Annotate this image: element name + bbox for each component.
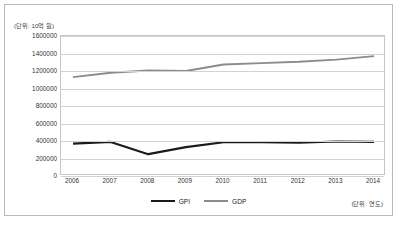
gridline (61, 71, 384, 72)
x-tick-label: 2011 (253, 177, 267, 184)
y-tick-label: 600000 (36, 119, 57, 126)
y-tick-label: 1600000 (32, 32, 57, 39)
y-tick-label: 800000 (36, 102, 57, 109)
gridline (61, 124, 384, 125)
x-axis-tick-labels: 200620072008200920102011201220132014 (60, 177, 385, 189)
gridline (61, 36, 384, 37)
series-line-gdp (73, 56, 374, 77)
legend-swatch-gpi (151, 200, 175, 202)
y-tick-label: 0 (53, 172, 57, 179)
y-tick-label: 1000000 (32, 84, 57, 91)
legend-item-gpi[interactable]: GPI (151, 198, 190, 205)
x-axis-unit-label: (단위: 연도) (351, 199, 383, 208)
y-tick-label: 200000 (36, 154, 57, 161)
x-tick-label: 2012 (291, 177, 305, 184)
gridline (61, 54, 384, 55)
y-axis-tick-labels: 0200000400000600000800000100000012000001… (5, 35, 57, 175)
x-tick-label: 2008 (140, 177, 154, 184)
chart-frame: (단위: 10억 원) 0200000400000600000800000100… (4, 4, 393, 216)
gridline (61, 141, 384, 142)
gridline (61, 159, 384, 160)
x-tick-label: 2013 (328, 177, 342, 184)
chart-legend: GPIGDP (5, 193, 392, 209)
x-tick-label: 2007 (103, 177, 117, 184)
x-tick-label: 2009 (178, 177, 192, 184)
gridline (61, 106, 384, 107)
x-tick-label: 2014 (366, 177, 380, 184)
y-axis-unit-label: (단위: 10억 원) (14, 21, 54, 30)
legend-label: GPI (179, 198, 190, 205)
y-tick-label: 1400000 (32, 49, 57, 56)
legend-label: GDP (232, 198, 246, 205)
y-tick-label: 400000 (36, 137, 57, 144)
x-tick-label: 2010 (215, 177, 229, 184)
gridline (61, 89, 384, 90)
legend-item-gdp[interactable]: GDP (204, 198, 246, 205)
legend-swatch-gdp (204, 200, 228, 202)
plot-area (60, 35, 385, 175)
y-tick-label: 1200000 (32, 67, 57, 74)
x-tick-label: 2006 (65, 177, 79, 184)
series-line-gpi (73, 141, 374, 154)
